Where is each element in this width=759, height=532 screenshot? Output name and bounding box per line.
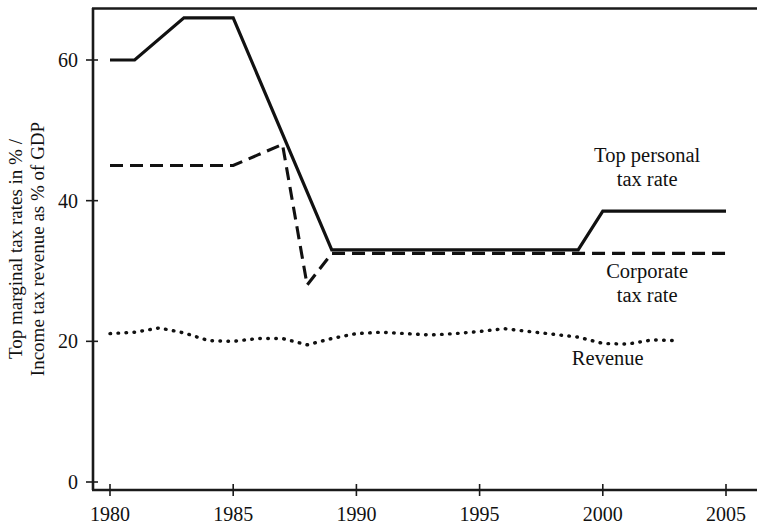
y-tick-label: 0 (68, 471, 78, 493)
y-axis-title: Top marginal tax rates in % / Income tax… (5, 122, 48, 376)
series-revenue (110, 328, 677, 345)
x-tick-label: 1990 (336, 503, 376, 525)
y-tick-label: 40 (58, 190, 78, 212)
y-tick-label: 60 (58, 49, 78, 71)
x-tick-label: 2000 (583, 503, 623, 525)
x-tick-label: 1985 (213, 503, 253, 525)
y-axis-tick-labels: 0204060 (58, 49, 78, 493)
x-tick-label: 2005 (706, 503, 746, 525)
top-personal-tax-rate-label-line2: tax rate (617, 168, 678, 190)
x-tick-label: 1980 (90, 503, 130, 525)
revenue-label-text: Revenue (572, 347, 644, 369)
top-personal-tax-rate-label-line1: Top personal (594, 144, 700, 167)
corporate-tax-rate-label-line2: tax rate (617, 284, 678, 306)
chart-figure: 0204060 198019851990199520002005 Top per… (0, 0, 759, 532)
inline-legend: Top personal tax rate Corporate tax rate… (572, 144, 701, 369)
chart-canvas: 0204060 198019851990199520002005 Top per… (0, 0, 759, 532)
corporate-tax-rate-label-line1: Corporate (606, 260, 688, 283)
y-axis-title-line2: Income tax revenue as % of GDP (27, 122, 48, 376)
x-axis-tick-labels: 198019851990199520002005 (90, 503, 746, 525)
y-axis-title-line1: Top marginal tax rates in % / (5, 138, 26, 359)
series-top-personal-tax-rate (110, 18, 726, 250)
y-tick-label: 20 (58, 330, 78, 352)
x-tick-label: 1995 (460, 503, 500, 525)
